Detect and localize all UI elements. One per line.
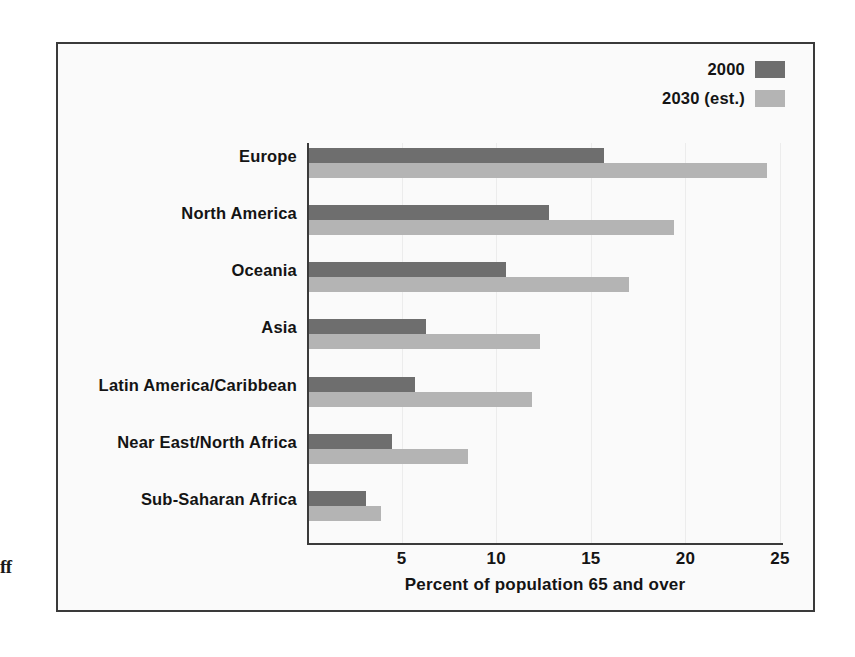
bar-secondary xyxy=(309,506,381,521)
x-tick-label: 5 xyxy=(397,549,407,569)
legend-label-2030: 2030 (est.) xyxy=(662,89,745,108)
bar-secondary xyxy=(309,334,540,349)
x-tick-label: 20 xyxy=(676,549,695,569)
gridline xyxy=(685,143,686,543)
x-axis-line xyxy=(307,543,783,545)
category-label: Europe xyxy=(239,147,297,166)
bar-primary xyxy=(309,205,549,220)
bar-primary xyxy=(309,434,392,449)
chart-figure-frame: 2000 2030 (est.) EuropeNorth AmericaOcea… xyxy=(56,42,815,612)
gridline xyxy=(780,143,781,543)
legend-entry-2030: 2030 (est.) xyxy=(662,89,785,108)
bar-secondary xyxy=(309,220,674,235)
chart-legend: 2000 2030 (est.) xyxy=(662,60,785,108)
bar-primary xyxy=(309,377,415,392)
bar-primary xyxy=(309,319,426,334)
category-label: Near East/North Africa xyxy=(117,433,297,452)
legend-swatch-2000 xyxy=(755,61,785,78)
bar-secondary xyxy=(309,449,468,464)
category-label: North America xyxy=(181,204,297,223)
bar-secondary xyxy=(309,277,629,292)
category-label: Latin America/Caribbean xyxy=(99,376,297,395)
legend-swatch-2030 xyxy=(755,90,785,107)
category-label: Asia xyxy=(261,318,297,337)
gridline xyxy=(591,143,592,543)
category-label: Sub-Saharan Africa xyxy=(141,490,297,509)
legend-label-2000: 2000 xyxy=(707,60,745,79)
bar-secondary xyxy=(309,163,767,178)
legend-entry-2000: 2000 xyxy=(662,60,785,79)
bar-secondary xyxy=(309,392,532,407)
x-axis-title: Percent of population 65 and over xyxy=(307,575,783,595)
x-tick-label: 15 xyxy=(581,549,600,569)
category-label: Oceania xyxy=(231,261,297,280)
bar-primary xyxy=(309,491,366,506)
x-tick-label: 10 xyxy=(487,549,506,569)
bar-primary xyxy=(309,262,506,277)
page-margin-text-fragment: ff xyxy=(0,556,20,578)
x-tick-label: 25 xyxy=(770,549,789,569)
bar-primary xyxy=(309,148,604,163)
plot-area: EuropeNorth AmericaOceaniaAsiaLatin Amer… xyxy=(307,143,783,545)
